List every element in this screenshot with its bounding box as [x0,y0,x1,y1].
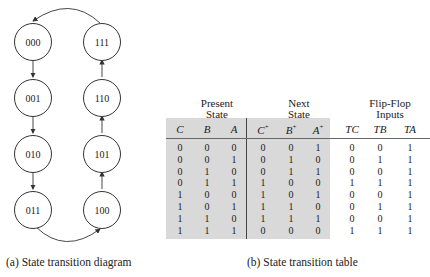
table-cell: 1 [279,214,303,225]
col-B: B [195,123,219,135]
table-cell: 0 [340,155,364,166]
table-cell: 1 [251,214,275,225]
state-110: 110 [83,79,121,117]
present-state-header: Present State [182,98,252,120]
table-cell: 0 [368,190,392,201]
table-cell: 1 [168,202,192,213]
table-divider [246,118,247,239]
table-cell: 1 [368,155,392,166]
table-cell: 0 [340,190,364,201]
table-cell: 0 [168,178,192,189]
table-cell: 0 [195,155,219,166]
present-header-line2: State [182,109,252,120]
table-cell: 1 [168,226,192,237]
table-cell: 0 [368,214,392,225]
table-cell: 0 [340,214,364,225]
table-cell: 1 [340,178,364,189]
col-TB: TB [368,123,392,135]
state-011: 011 [14,191,52,229]
next-state-header: Next State [264,98,334,120]
table-cell: 1 [398,190,422,201]
table-cell: 0 [279,178,303,189]
table-cell: 0 [279,190,303,201]
table-cell: 1 [222,178,246,189]
table-cell: 1 [168,190,192,201]
table-cell: 0 [195,190,219,201]
table-cell: 0 [340,143,364,154]
table-cell: 0 [306,155,330,166]
table-cell: 0 [168,143,192,154]
table-cell: 0 [368,167,392,178]
table-cell: 0 [251,167,275,178]
table-cell: 1 [398,143,422,154]
header-rule [166,138,430,139]
table-cell: 1 [195,226,219,237]
table-cell: 0 [168,155,192,166]
state-transition-diagram: 000 001 010 011 111 110 101 100 [0,0,160,250]
flipflop-inputs-header: Flip-Flop Inputs [355,98,425,120]
table-cell: 0 [306,178,330,189]
table-cell: 0 [251,226,275,237]
table-cell: 1 [251,178,275,189]
state-010: 010 [14,135,52,173]
table-cell: 0 [222,190,246,201]
table-cell: 1 [279,155,303,166]
table-cell: 0 [306,202,330,213]
table-cell: 0 [168,167,192,178]
table-cell: 1 [195,214,219,225]
table-cell: 0 [368,143,392,154]
col-C: C [168,123,192,135]
table-cell: 0 [222,167,246,178]
next-header-line2: State [264,109,334,120]
table-cell: 1 [368,202,392,213]
table-cell: 1 [398,214,422,225]
table-cell: 1 [251,202,275,213]
table-cell: 1 [306,143,330,154]
table-cell: 1 [279,202,303,213]
col-B-next: B+ [279,123,303,136]
table-cell: 0 [195,202,219,213]
table-cell: 1 [340,226,364,237]
table-cell: 0 [279,143,303,154]
table-cell: 1 [195,178,219,189]
ff-header-line2: Inputs [355,109,425,120]
table-cell: 1 [168,214,192,225]
col-TC: TC [340,123,364,135]
table-cell: 1 [306,214,330,225]
table-cell: 1 [398,167,422,178]
table-cell: 0 [222,214,246,225]
table-cell: 0 [251,155,275,166]
state-100: 100 [83,191,121,229]
state-000: 000 [14,23,52,61]
table-cell: 1 [306,190,330,201]
table-cell: 1 [195,167,219,178]
table-cell: 0 [340,202,364,213]
col-A: A [222,123,246,135]
table-cell: 1 [398,178,422,189]
table-cell: 0 [251,143,275,154]
table-cell: 1 [398,155,422,166]
diagram-caption: (a) State transition diagram [6,256,132,268]
state-101: 101 [83,135,121,173]
table-cell: 0 [195,143,219,154]
table-cell: 1 [398,202,422,213]
table-cell: 0 [279,226,303,237]
table-cell: 1 [222,226,246,237]
table-cell: 1 [222,155,246,166]
table-cell: 0 [340,167,364,178]
table-cell: 0 [222,143,246,154]
col-A-next: A+ [306,123,330,136]
table-cell: 1 [222,202,246,213]
table-cell: 1 [368,178,392,189]
table-caption: (b) State transition table [247,256,358,268]
state-001: 001 [14,79,52,117]
table-cell: 1 [251,190,275,201]
table-cell: 1 [398,226,422,237]
table-cell: 0 [306,226,330,237]
table-cell: 1 [368,226,392,237]
col-C-next: C+ [251,123,275,136]
col-TA: TA [398,123,422,135]
state-111: 111 [83,23,121,61]
table-cell: 1 [279,167,303,178]
table-cell: 1 [306,167,330,178]
